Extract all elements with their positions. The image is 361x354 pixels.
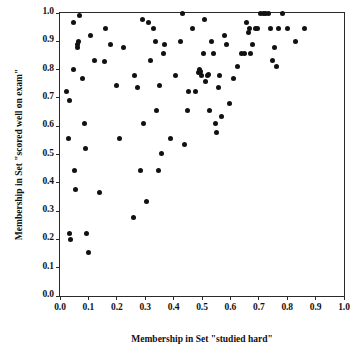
- x-tick-mark: [287, 296, 288, 300]
- scatter-chart-figure: 0.00.10.20.30.40.50.60.70.80.91.0 0.00.1…: [0, 0, 361, 354]
- x-tick-mark: [173, 296, 174, 300]
- x-tick-mark: [258, 296, 259, 300]
- x-tick-label: 0.7: [245, 302, 273, 312]
- y-tick-label: 0.1: [42, 261, 54, 271]
- x-tick-mark: [116, 296, 117, 300]
- x-tick-label: 0.9: [302, 302, 330, 312]
- x-tick-label: 0.1: [74, 302, 102, 312]
- x-tick-label: 0.8: [273, 302, 301, 312]
- x-tick-mark: [202, 296, 203, 300]
- y-tick-label: 0.3: [42, 204, 54, 214]
- y-tick-mark: [56, 13, 60, 14]
- y-tick-mark: [56, 41, 60, 42]
- y-tick-label: 0.4: [42, 176, 54, 186]
- x-axis-title: Membership in Set "studied hard": [59, 334, 345, 344]
- y-tick-label: 0.0: [42, 289, 54, 299]
- y-tick-label: 1.0: [42, 6, 54, 16]
- y-tick-mark: [56, 126, 60, 127]
- y-tick-mark: [56, 69, 60, 70]
- y-tick-mark: [56, 154, 60, 155]
- x-tick-mark: [315, 296, 316, 300]
- x-tick-label: 0.2: [103, 302, 131, 312]
- y-tick-mark: [56, 97, 60, 98]
- y-tick-label: 0.5: [42, 148, 54, 158]
- y-tick-label: 0.7: [42, 91, 54, 101]
- x-tick-label: 0.5: [188, 302, 216, 312]
- x-tick-label: 0.3: [131, 302, 159, 312]
- x-tick-label: 0.6: [216, 302, 244, 312]
- x-tick-label: 1.0: [330, 302, 358, 312]
- x-tick-mark: [230, 296, 231, 300]
- plot-area: 0.00.10.20.30.40.50.60.70.80.91.0 0.00.1…: [59, 12, 345, 297]
- y-tick-label: 0.2: [42, 232, 54, 242]
- x-tick-label: 0.0: [46, 302, 74, 312]
- x-tick-mark: [60, 296, 61, 300]
- x-tick-label: 0.4: [160, 302, 188, 312]
- y-tick-mark: [56, 267, 60, 268]
- x-tick-mark: [145, 296, 146, 300]
- y-tick-label: 0.9: [42, 34, 54, 44]
- y-tick-mark: [56, 239, 60, 240]
- y-tick-mark: [56, 211, 60, 212]
- y-tick-label: 0.6: [42, 119, 54, 129]
- y-tick-label: 0.8: [42, 63, 54, 73]
- x-tick-mark: [344, 296, 345, 300]
- x-tick-mark: [88, 296, 89, 300]
- y-axis-ticks: 0.00.10.20.30.40.50.60.70.80.91.0: [60, 13, 344, 296]
- y-axis-title: Membership in Set "scored well on exam": [14, 12, 28, 297]
- y-tick-mark: [56, 182, 60, 183]
